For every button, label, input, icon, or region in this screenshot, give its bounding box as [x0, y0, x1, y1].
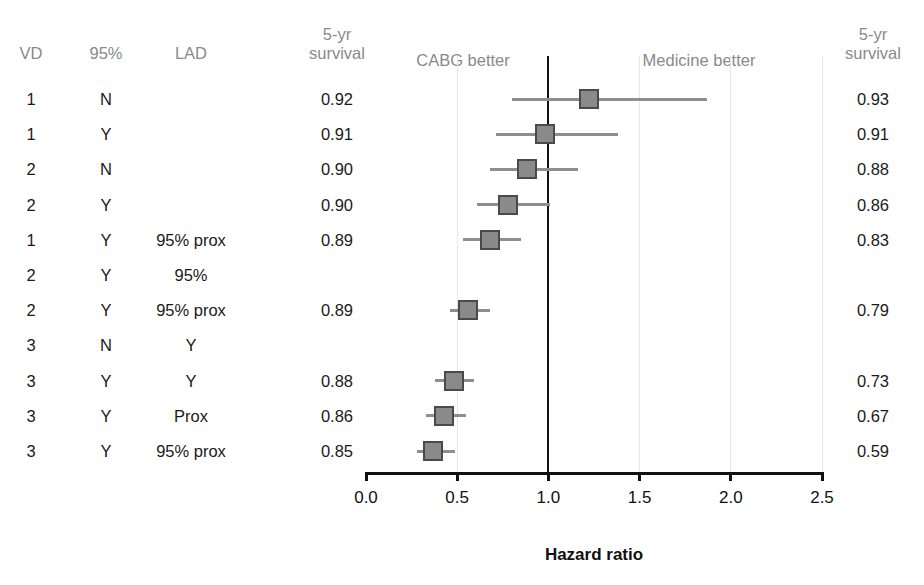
table-cell-vd: 2: [2, 300, 60, 320]
hazard-ratio-marker: [458, 300, 478, 320]
table-cell-left-survival: 0.89: [288, 300, 386, 320]
table-cell-95pct: Y: [76, 300, 136, 320]
column-header-lad: LAD: [158, 44, 224, 63]
table-cell-left-survival: 0.85: [288, 441, 386, 461]
table-cell-left-survival: 0.86: [288, 406, 386, 426]
axis-tick-label: 0.0: [336, 488, 396, 508]
table-cell-95pct: Y: [76, 230, 136, 250]
hazard-ratio-marker: [434, 406, 454, 426]
table-cell-lad: 95% prox: [145, 300, 237, 320]
axis-tick: [365, 472, 368, 481]
forest-plot-figure: VD 95% LAD 5-yr survival 5-yr survival C…: [0, 0, 924, 585]
axis-tick: [547, 472, 550, 481]
table-cell-lad: 95% prox: [145, 230, 237, 250]
table-cell-vd: 2: [2, 159, 60, 179]
axis-tick-label: 2.5: [792, 488, 852, 508]
table-cell-lad: 95%: [145, 265, 237, 285]
table-cell-lad: Y: [145, 371, 237, 391]
confidence-interval-bar: [477, 203, 550, 206]
table-cell-vd: 3: [2, 441, 60, 461]
table-cell-right-survival: 0.67: [824, 406, 922, 426]
table-cell-left-survival: 0.90: [288, 195, 386, 215]
column-header-left-survival: 5-yr survival: [288, 25, 386, 63]
confidence-interval-bar: [426, 414, 466, 417]
confidence-interval-bar: [450, 309, 490, 312]
table-cell-lad: Y: [145, 335, 237, 355]
table-cell-right-survival: 0.88: [824, 159, 922, 179]
table-cell-lad: Prox: [145, 406, 237, 426]
hazard-ratio-marker: [517, 159, 537, 179]
axis-tick: [638, 472, 641, 481]
column-header-vd: VD: [2, 44, 60, 63]
table-cell-left-survival: 0.88: [288, 371, 386, 391]
table-cell-left-survival: 0.92: [288, 89, 386, 109]
table-cell-95pct: Y: [76, 124, 136, 144]
table-cell-right-survival: 0.79: [824, 300, 922, 320]
table-cell-95pct: Y: [76, 441, 136, 461]
axis-tick-label: 1.5: [610, 488, 670, 508]
axis-tick: [729, 472, 732, 481]
table-cell-vd: 3: [2, 371, 60, 391]
confidence-interval-bar: [435, 379, 473, 382]
table-cell-95pct: N: [76, 159, 136, 179]
table-cell-left-survival: 0.90: [288, 159, 386, 179]
table-cell-right-survival: 0.86: [824, 195, 922, 215]
confidence-interval-bar: [463, 238, 521, 241]
table-cell-right-survival: 0.93: [824, 89, 922, 109]
table-cell-vd: 1: [2, 230, 60, 250]
axis-title: Hazard ratio: [0, 545, 924, 565]
right-survival-line2: survival: [824, 44, 922, 63]
confidence-interval-bar: [512, 98, 707, 101]
annotation-cabg-better: CABG better: [393, 51, 533, 70]
table-cell-95pct: Y: [76, 406, 136, 426]
right-survival-line1: 5-yr: [824, 25, 922, 44]
table-cell-vd: 3: [2, 335, 60, 355]
table-cell-95pct: N: [76, 89, 136, 109]
reference-line: [547, 56, 549, 472]
table-cell-95pct: N: [76, 335, 136, 355]
hazard-ratio-marker: [444, 371, 464, 391]
left-survival-line2: survival: [288, 44, 386, 63]
hazard-ratio-marker: [535, 124, 555, 144]
axis-tick-label: 2.0: [701, 488, 761, 508]
table-cell-lad: 95% prox: [145, 441, 237, 461]
confidence-interval-bar: [417, 450, 455, 453]
table-cell-right-survival: 0.91: [824, 124, 922, 144]
table-cell-right-survival: 0.73: [824, 371, 922, 391]
axis-tick: [456, 472, 459, 481]
table-cell-95pct: Y: [76, 371, 136, 391]
axis-title-text: Hazard ratio: [545, 545, 643, 565]
hazard-ratio-marker: [423, 441, 443, 461]
table-cell-vd: 1: [2, 124, 60, 144]
hazard-ratio-marker: [480, 230, 500, 250]
left-survival-line1: 5-yr: [288, 25, 386, 44]
hazard-ratio-marker: [498, 195, 518, 215]
gridline: [639, 56, 640, 472]
table-cell-right-survival: 0.59: [824, 441, 922, 461]
gridline: [730, 56, 731, 472]
gridline: [822, 56, 823, 472]
axis-tick: [821, 472, 824, 481]
table-cell-left-survival: 0.89: [288, 230, 386, 250]
table-cell-vd: 1: [2, 89, 60, 109]
axis-tick-label: 0.5: [427, 488, 487, 508]
table-cell-vd: 2: [2, 195, 60, 215]
axis-tick-label: 1.0: [518, 488, 578, 508]
table-cell-95pct: Y: [76, 195, 136, 215]
column-header-95pct: 95%: [76, 44, 136, 63]
table-cell-vd: 3: [2, 406, 60, 426]
hazard-ratio-marker: [579, 89, 599, 109]
confidence-interval-bar: [496, 133, 618, 136]
table-cell-right-survival: 0.83: [824, 230, 922, 250]
table-cell-left-survival: 0.91: [288, 124, 386, 144]
annotation-medicine-better: Medicine better: [619, 51, 779, 70]
confidence-interval-bar: [490, 168, 578, 171]
column-header-right-survival: 5-yr survival: [824, 25, 922, 63]
table-cell-95pct: Y: [76, 265, 136, 285]
axis-line: [366, 472, 822, 475]
table-cell-vd: 2: [2, 265, 60, 285]
gridline: [457, 56, 458, 472]
